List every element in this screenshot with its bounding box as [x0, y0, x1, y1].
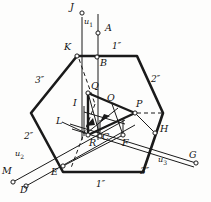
point-label-I: I: [73, 98, 77, 108]
point-label-P: P: [136, 99, 142, 109]
axis-label-u2: u2: [15, 150, 24, 160]
plane-label-2-right: 2″: [151, 75, 160, 84]
axis-label-u3: u3: [158, 156, 167, 166]
geometry-diagram: J A K B Q I O P L R C F H G E M D u1 u2 …: [0, 0, 211, 202]
point-label-K: K: [64, 42, 71, 52]
point-label-A: A: [105, 23, 112, 33]
plane-label-3-left: 3″: [35, 76, 44, 85]
point-label-B: B: [100, 58, 107, 68]
point-label-D: D: [20, 185, 28, 195]
marker-A: [96, 31, 100, 35]
plane-label-3-lower-right: 3″: [140, 167, 149, 176]
marker-E: [61, 164, 65, 168]
marker-B: [95, 55, 99, 59]
point-label-J: J: [70, 2, 74, 12]
point-label-H: H: [160, 124, 168, 134]
marker-K: [75, 54, 79, 58]
marker-Q: [86, 91, 90, 95]
marker-J: [80, 11, 84, 15]
hexagon-outline: [31, 56, 163, 172]
marker-G: [194, 161, 198, 165]
marker-M: [11, 180, 15, 184]
point-label-R: R: [89, 138, 96, 148]
point-label-O: O: [107, 93, 115, 103]
marker-H: [153, 131, 157, 135]
plane-label-1-top: 1″: [112, 42, 121, 51]
plane-label-2-lower-left: 2″: [24, 132, 33, 141]
point-label-M: M: [2, 166, 12, 176]
guide-line-p-h: [135, 113, 155, 133]
point-label-L: L: [56, 116, 62, 126]
point-label-Q: Q: [91, 81, 99, 91]
point-label-E: E: [51, 167, 58, 177]
axis-label-u1: u1: [84, 18, 93, 28]
plane-label-1-bottom: 1″: [96, 180, 105, 189]
marker-P: [133, 111, 137, 115]
point-label-G: G: [189, 150, 197, 160]
point-label-F: F: [122, 138, 129, 148]
point-label-C: C: [102, 132, 109, 142]
